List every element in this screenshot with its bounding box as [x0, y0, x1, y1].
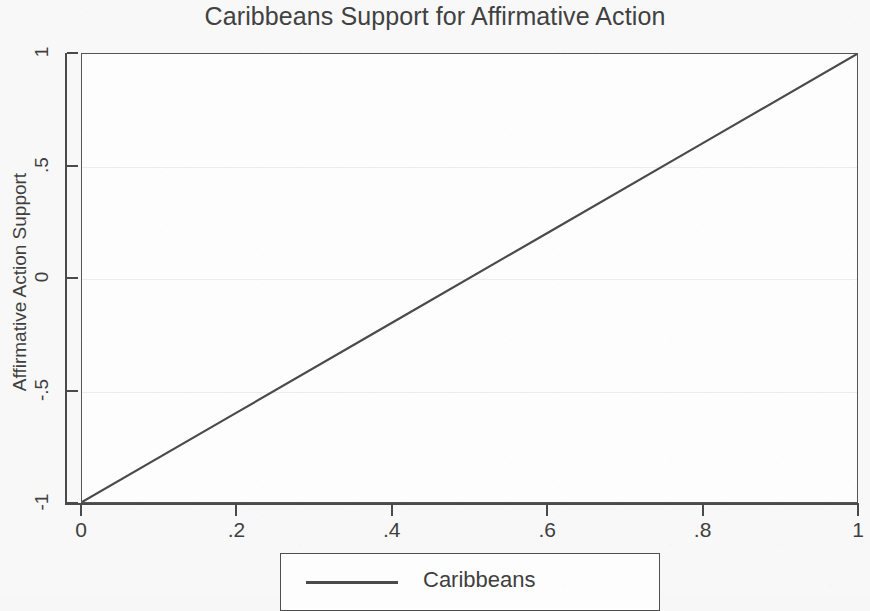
x-tick-mark: [546, 505, 548, 516]
y-tick-mark: [67, 165, 78, 167]
y-tick-label: .5: [31, 145, 53, 185]
x-axis-spine: [65, 503, 859, 505]
y-axis-title: Affirmative Action Support: [9, 132, 31, 432]
y-tick-mark: [67, 277, 78, 279]
x-tick-mark: [391, 505, 393, 516]
y-tick-label: 1: [31, 32, 53, 72]
x-tick-mark: [857, 505, 859, 516]
x-tick-label: .4: [362, 518, 422, 542]
series-line-caribbeans: [82, 54, 857, 502]
y-tick-label: 0: [31, 257, 53, 297]
legend-box: Caribbeans: [280, 553, 660, 611]
y-tick-label: -1: [31, 482, 53, 522]
plot-area: [81, 53, 858, 503]
legend-label-caribbeans: Caribbeans: [423, 567, 536, 593]
y-tick-mark: [67, 502, 78, 504]
series-layer: [82, 54, 857, 502]
y-tick-mark: [67, 52, 78, 54]
x-tick-mark: [80, 505, 82, 516]
x-tick-mark: [235, 505, 237, 516]
x-tick-label: .2: [206, 518, 266, 542]
x-tick-label: .8: [673, 518, 733, 542]
x-tick-label: .6: [517, 518, 577, 542]
x-tick-mark: [702, 505, 704, 516]
x-tick-label: 0: [51, 518, 111, 542]
chart-title: Caribbeans Support for Affirmative Actio…: [0, 2, 870, 31]
legend-key-line-caribbeans: [306, 581, 398, 584]
y-tick-mark: [67, 390, 78, 392]
y-tick-label: -.5: [31, 370, 53, 410]
x-tick-label: 1: [828, 518, 870, 542]
